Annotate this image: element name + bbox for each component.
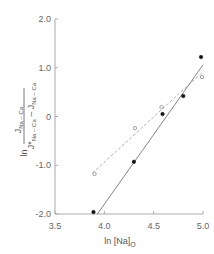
open-data-point — [200, 75, 203, 78]
filled-data-point — [92, 210, 96, 214]
x-tick-label: 4.5 — [147, 221, 160, 231]
solid-fit-line — [97, 65, 203, 214]
y-tick-label: -1.0 — [35, 160, 51, 170]
filled-data-point — [161, 112, 165, 116]
filled-data-point — [181, 94, 185, 98]
svg-text:J*Na – Ca – JNa – Ca: J*Na – Ca – JNa – Ca — [26, 82, 37, 149]
open-data-point — [133, 127, 136, 130]
x-tick-label: 4.0 — [98, 221, 111, 231]
x-axis-label: ln [Na]O — [104, 236, 136, 248]
data-points — [92, 55, 204, 214]
dashed-fit-line — [92, 72, 203, 173]
filled-data-point — [132, 160, 136, 164]
open-data-point — [93, 172, 96, 175]
y-axis-label: ln JNa – Ca J*Na – Ca – JNa – Ca — [13, 82, 37, 156]
x-tick-label: 5.0 — [197, 221, 210, 231]
svg-text:ln: ln — [19, 149, 29, 156]
y-tick-label: 2.0 — [38, 14, 51, 24]
fit-lines — [92, 65, 203, 214]
y-tick-label: 0 — [46, 112, 51, 122]
svg-text:JNa – Ca: JNa – Ca — [13, 106, 24, 133]
y-tick-label: 1.0 — [38, 63, 51, 73]
chart: 2.01.00-1.0-2.0 3.54.04.55.0 ln [Na]O ln… — [0, 0, 214, 254]
open-data-point — [160, 106, 163, 109]
y-tick-label: -2.0 — [35, 209, 51, 219]
filled-data-point — [199, 55, 203, 59]
x-tick-label: 3.5 — [49, 221, 62, 231]
